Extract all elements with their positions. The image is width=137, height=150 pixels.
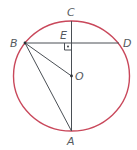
- label-b: B: [10, 37, 18, 50]
- geometry-diagram: C E B D O A: [0, 0, 137, 150]
- label-e: E: [60, 29, 67, 42]
- label-d: D: [123, 37, 131, 50]
- right-angle-dot: [67, 46, 69, 48]
- label-a: A: [66, 135, 75, 148]
- segment-ba: [25, 43, 72, 131]
- point-o: [70, 75, 73, 78]
- label-c: C: [67, 6, 75, 19]
- label-o: O: [75, 70, 84, 83]
- point-b: [24, 42, 27, 45]
